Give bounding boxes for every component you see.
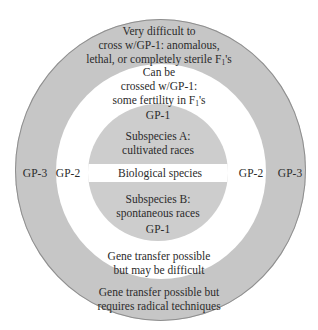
gp2-bottom-line1: Gene transfer possible — [0, 249, 318, 263]
subspecies-b: Subspecies B: spontaneous races — [88, 192, 228, 220]
gp1-label-bottom: GP-1 — [88, 222, 228, 236]
subspecies-b-line1: Subspecies B: — [88, 192, 228, 206]
gp2-top-line3: some fertility in F1's — [0, 93, 318, 107]
gp3-bottom-line1: Gene transfer possible but — [0, 285, 318, 299]
gp3-bottom-line2: requires radical techniques — [0, 299, 318, 313]
biological-species-label: Biological species — [100, 166, 220, 180]
subspecies-b-line2: spontaneous races — [88, 206, 228, 220]
gp3-bottom-description: Gene transfer possible but requires radi… — [0, 285, 318, 313]
gp2-label-right: GP-2 — [237, 166, 265, 180]
gp3-top-line3: lethal, or completely sterile F1's — [0, 52, 318, 66]
subspecies-a-line1: Subspecies A: — [88, 129, 228, 143]
gp3-label-left: GP-3 — [20, 166, 50, 180]
subspecies-a: Subspecies A: cultivated races — [88, 129, 228, 157]
gp2-top-line1: Can be — [0, 65, 318, 79]
gp3-top-description: Very difficult to cross w/GP-1: anomalou… — [0, 24, 318, 66]
gp2-bottom-line2: but may be difficult — [0, 263, 318, 277]
gp2-bottom-description: Gene transfer possible but may be diffic… — [0, 249, 318, 277]
subspecies-a-line2: cultivated races — [88, 143, 228, 157]
gp3-label-right: GP-3 — [275, 166, 305, 180]
gp2-top-description: Can be crossed w/GP-1: some fertility in… — [0, 65, 318, 107]
gp2-top-line2: crossed w/GP-1: — [0, 79, 318, 93]
gp2-label-left: GP-2 — [54, 166, 82, 180]
gp1-label-top: GP-1 — [88, 108, 228, 122]
gp3-top-line1: Very difficult to — [0, 24, 318, 38]
gp3-top-line2: cross w/GP-1: anomalous, — [0, 38, 318, 52]
